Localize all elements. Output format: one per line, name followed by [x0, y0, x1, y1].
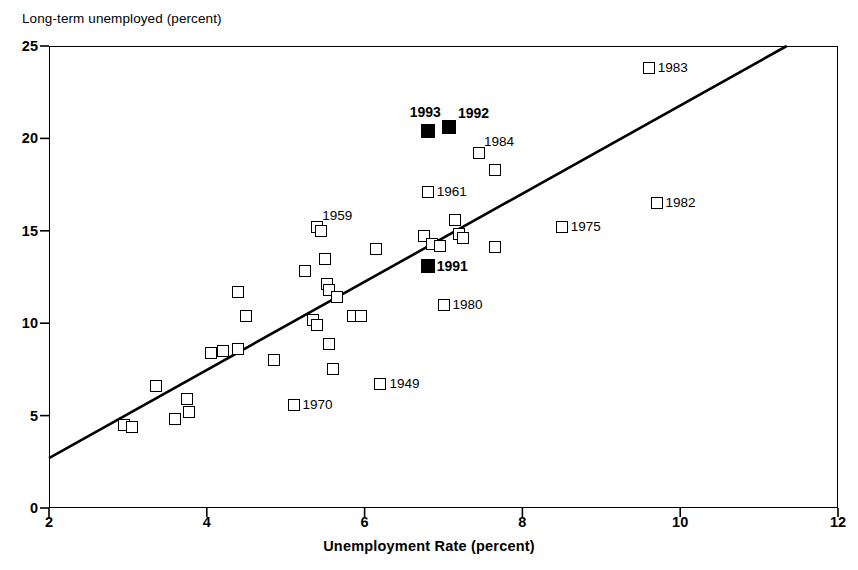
y-tick-label: 25	[4, 38, 38, 54]
data-point	[489, 164, 501, 176]
data-point-1991	[421, 259, 435, 273]
y-axis-title: Long-term unemployed (percent)	[22, 11, 222, 26]
y-tick-label: 10	[4, 315, 38, 331]
data-point	[311, 319, 323, 331]
data-point-label-1992: 1992	[458, 105, 489, 121]
data-point	[169, 413, 181, 425]
data-point	[232, 343, 244, 355]
data-point-1982	[651, 197, 663, 209]
scatter-plot-figure: Long-term unemployed (percent) 051015202…	[0, 0, 858, 570]
data-point-label-1993: 1993	[410, 104, 441, 120]
x-tick-label: 4	[187, 514, 227, 530]
data-point-1970	[288, 399, 300, 411]
x-axis-title: Unemployment Rate (percent)	[0, 538, 858, 554]
data-point-1975	[556, 221, 568, 233]
data-point	[370, 243, 382, 255]
data-point	[181, 393, 193, 405]
data-point-label-1949: 1949	[389, 376, 419, 391]
data-point-1961	[422, 186, 434, 198]
data-point-label-1984: 1984	[484, 134, 514, 149]
data-point	[319, 253, 331, 265]
data-point	[205, 347, 217, 359]
data-point-label-1991: 1991	[437, 258, 468, 274]
data-point	[217, 345, 229, 357]
plot-area	[49, 46, 838, 508]
data-point-1993	[421, 124, 435, 138]
data-point	[457, 232, 469, 244]
data-point-label-1970: 1970	[303, 397, 333, 412]
data-point-label-1959: 1959	[322, 208, 352, 223]
data-point-label-1982: 1982	[666, 195, 696, 210]
data-point-label-1961: 1961	[437, 184, 467, 199]
x-tick-label: 10	[660, 514, 700, 530]
data-point	[323, 338, 335, 350]
data-point	[355, 310, 367, 322]
data-point	[299, 265, 311, 277]
x-tick-label: 8	[502, 514, 542, 530]
data-point-1992	[442, 120, 456, 134]
data-point	[449, 214, 461, 226]
data-point	[126, 421, 138, 433]
data-point	[150, 380, 162, 392]
data-point-1949	[374, 378, 386, 390]
x-tick-label: 2	[29, 514, 69, 530]
data-point	[240, 310, 252, 322]
data-point	[489, 241, 501, 253]
x-tick-label: 6	[345, 514, 385, 530]
data-point-label-1983: 1983	[658, 60, 688, 75]
data-point-1980	[438, 299, 450, 311]
data-point	[434, 240, 446, 252]
y-tick-label: 15	[4, 223, 38, 239]
data-point-1983	[643, 62, 655, 74]
data-point-label-1980: 1980	[453, 297, 483, 312]
data-point	[183, 406, 195, 418]
y-tick-label: 5	[4, 408, 38, 424]
y-tick-label: 20	[4, 130, 38, 146]
data-point	[268, 354, 280, 366]
x-tick-label: 12	[818, 514, 858, 530]
data-point	[331, 291, 343, 303]
data-point-label-1975: 1975	[571, 219, 601, 234]
data-point	[232, 286, 244, 298]
data-point	[327, 363, 339, 375]
data-point	[315, 225, 327, 237]
